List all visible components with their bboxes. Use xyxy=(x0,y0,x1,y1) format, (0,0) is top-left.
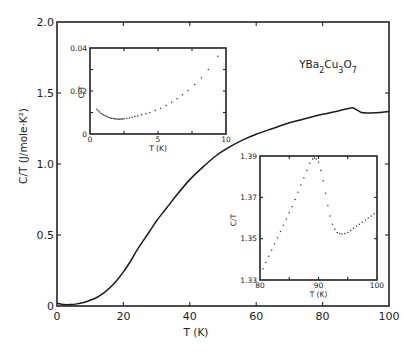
data-point xyxy=(309,162,311,164)
data-point xyxy=(332,223,334,225)
data-point xyxy=(356,226,358,228)
data-point xyxy=(165,105,167,107)
y-tick-label: 0 xyxy=(47,300,54,313)
data-point xyxy=(101,113,103,115)
data-point xyxy=(315,158,317,160)
data-point xyxy=(376,211,378,213)
data-point xyxy=(347,232,349,234)
data-point xyxy=(271,249,273,251)
data-point xyxy=(306,170,308,172)
y-tick-label: 0.04 xyxy=(70,44,87,53)
data-point xyxy=(121,118,123,120)
y-tick-label: 1.0 xyxy=(37,158,55,171)
data-point xyxy=(97,110,99,112)
plot-frame xyxy=(90,48,226,134)
data-point xyxy=(201,77,203,79)
inset-low-temperature: 051000.020.04T (K)C/T xyxy=(70,44,231,153)
data-point xyxy=(145,113,147,115)
data-point xyxy=(341,233,343,235)
data-point xyxy=(320,170,322,172)
data-point xyxy=(155,110,157,112)
data-point xyxy=(280,231,282,233)
data-point xyxy=(312,158,314,160)
data-point xyxy=(123,118,125,120)
plot-frame xyxy=(260,156,377,280)
y-tick-label: 0 xyxy=(82,130,87,139)
data-point xyxy=(129,117,131,119)
data-point xyxy=(114,118,116,120)
data-point xyxy=(111,118,113,120)
x-tick-label: 60 xyxy=(249,310,263,323)
data-point xyxy=(108,117,110,119)
data-point xyxy=(103,114,105,116)
data-point xyxy=(110,117,112,119)
x-tick-label: 10 xyxy=(221,135,231,144)
data-point xyxy=(314,157,316,159)
data-point xyxy=(119,118,121,120)
compound-formula-label: YBa2Cu3O7 xyxy=(298,58,357,75)
data-point xyxy=(116,118,118,120)
data-point xyxy=(329,215,331,217)
data-point xyxy=(100,112,102,114)
data-point xyxy=(112,118,114,120)
data-point xyxy=(283,224,285,226)
x-tick-label: 0 xyxy=(88,135,93,144)
data-point xyxy=(344,233,346,235)
data-point xyxy=(141,114,143,116)
y-axis-label: C/T xyxy=(77,85,86,98)
data-point xyxy=(126,118,128,120)
x-axis-label: T (K) xyxy=(148,144,167,153)
data-point xyxy=(359,223,361,225)
specific-heat-chart: 02040608010000.51.01.52.0T (K)C/T (J/mol… xyxy=(0,0,413,353)
y-tick-label: 1.37 xyxy=(240,193,257,202)
x-tick-label: 90 xyxy=(314,281,324,290)
data-point xyxy=(96,109,98,111)
data-point xyxy=(336,232,338,234)
x-tick-label: 20 xyxy=(116,310,130,323)
y-axis-label: C/T (J/mole·K²) xyxy=(17,108,29,184)
data-point xyxy=(353,228,355,230)
data-point xyxy=(122,118,124,120)
data-point xyxy=(107,116,109,118)
data-point xyxy=(262,268,264,270)
x-axis-label: T (K) xyxy=(183,326,209,338)
y-tick-label: 1.35 xyxy=(240,234,257,243)
data-point xyxy=(367,217,369,219)
data-point xyxy=(208,69,210,71)
data-point xyxy=(137,115,139,117)
y-tick-label: 2.0 xyxy=(37,16,55,29)
y-tick-label: 0.5 xyxy=(37,229,55,242)
data-point xyxy=(99,111,101,113)
main-plot: 02040608010000.51.01.52.0T (K)C/T (J/mol… xyxy=(17,16,400,338)
data-point xyxy=(106,116,108,118)
data-point xyxy=(303,177,305,179)
data-point xyxy=(268,255,270,257)
data-point xyxy=(339,233,341,235)
data-point xyxy=(182,94,184,96)
x-tick-label: 5 xyxy=(156,135,161,144)
x-tick-label: 0 xyxy=(54,310,61,323)
data-point xyxy=(318,161,320,163)
data-point xyxy=(265,262,267,264)
x-tick-label: 80 xyxy=(316,310,330,323)
data-point xyxy=(277,237,279,239)
data-point xyxy=(297,191,299,193)
data-point xyxy=(322,180,324,182)
data-point xyxy=(365,219,367,221)
y-axis-label: C/T xyxy=(229,213,238,226)
data-point xyxy=(362,221,364,223)
data-point xyxy=(187,90,189,92)
data-point xyxy=(289,212,291,214)
data-point xyxy=(118,118,120,120)
data-point xyxy=(370,215,372,217)
data-point xyxy=(149,112,151,114)
inset-transition-region: 80901001.331.351.371.39T (K)C/T xyxy=(229,152,384,299)
data-point xyxy=(300,184,302,186)
y-tick-label: 1.39 xyxy=(240,152,257,161)
x-tick-label: 40 xyxy=(183,310,197,323)
data-point xyxy=(334,229,336,231)
data-point xyxy=(294,199,296,201)
data-point xyxy=(131,116,133,118)
data-point xyxy=(327,205,329,207)
y-tick-label: 1.33 xyxy=(240,276,257,285)
